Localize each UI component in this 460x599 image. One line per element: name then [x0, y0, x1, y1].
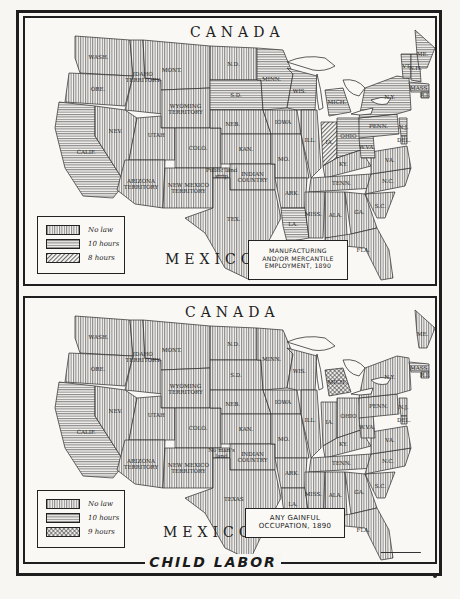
- legend-item-10-hours: 10 hours: [46, 513, 119, 523]
- state-label: N.J.: [399, 124, 409, 131]
- state-label: KY.: [339, 441, 348, 447]
- state-label: MASS.: [410, 365, 429, 371]
- state-label: TERRITORY: [168, 389, 203, 395]
- artist-signature: [381, 546, 424, 553]
- state-label: COUNTRY: [238, 177, 268, 183]
- state-label: IA.: [325, 139, 333, 145]
- state-label: KY.: [339, 161, 348, 167]
- state-label: ME.: [417, 51, 429, 57]
- state-label: MONT.: [162, 67, 182, 73]
- state-label: WASH.: [89, 54, 109, 60]
- state-label: KAN.: [239, 146, 254, 152]
- state-label: S.D.: [230, 92, 242, 98]
- legend-item-no-law: No law: [46, 499, 113, 509]
- state-label: R.I.: [420, 92, 430, 98]
- title-text: CHILD LABOR: [145, 554, 281, 570]
- state-label: TERRITORY: [171, 188, 206, 194]
- state-label: WASH.: [89, 334, 109, 340]
- state-label: MINN.: [262, 356, 281, 362]
- state-label: MICH.: [328, 379, 347, 385]
- legend-label: 9 hours: [88, 528, 115, 536]
- state-label: MISS.: [305, 491, 322, 497]
- corner-mark: [433, 574, 437, 578]
- state-label: ILL.: [304, 417, 316, 423]
- state-label: ORE.: [91, 86, 106, 92]
- state-label: MISS.: [305, 211, 322, 217]
- state-label: FLA.: [357, 247, 371, 253]
- pattern-swatch-vertical: [46, 499, 80, 509]
- state-label: CALIF.: [77, 429, 96, 435]
- state-label: TEXAS: [224, 496, 244, 502]
- state-label: LA.: [288, 501, 298, 507]
- state-label: TENN.: [332, 180, 351, 186]
- state-label: TERRITORY: [171, 468, 206, 474]
- state-label: TERRITORY: [168, 109, 203, 115]
- pattern-swatch-crosshatch: [46, 527, 80, 537]
- state-label: ARK.: [284, 470, 299, 476]
- state-label: N.C.: [382, 458, 394, 464]
- state-label: IOWA: [275, 119, 292, 125]
- state-label: N.D.: [227, 61, 240, 67]
- legend-label: 10 hours: [88, 240, 119, 248]
- state-label: TENN.: [332, 460, 351, 466]
- state-label: KAN.: [239, 426, 254, 432]
- legend-label: No law: [88, 226, 113, 234]
- pattern-swatch-diagonal: [46, 253, 80, 263]
- caption-line: EMPLOYMENT, 1890: [249, 262, 347, 270]
- state-label: OHIO: [340, 133, 357, 139]
- state-label: strip: [215, 173, 229, 180]
- legend-item-9-hours: 9 hours: [46, 527, 115, 537]
- state-label: NEV.: [108, 128, 122, 134]
- pattern-swatch-vertical: [46, 225, 80, 235]
- legend-label: 10 hours: [88, 514, 119, 522]
- state-label: UTAH: [148, 412, 165, 418]
- caption-line: OCCUPATION, 1890: [246, 523, 344, 531]
- state-label: MINN.: [262, 76, 281, 82]
- state-label: PENN.: [369, 123, 388, 129]
- state-label: TERRITORY: [126, 77, 161, 83]
- map-caption: MANUFACTURING AND/OR MERCANTILE EMPLOYME…: [248, 240, 348, 280]
- state-label: R.I.: [420, 372, 430, 378]
- state-label: UTAH: [148, 132, 165, 138]
- state-label: VA.: [384, 437, 395, 443]
- state-region: [415, 30, 435, 68]
- state-label: WIS.: [293, 368, 307, 374]
- state-label: N.H.: [409, 65, 422, 71]
- state-label: ARK.: [284, 190, 299, 196]
- legend-label: No law: [88, 500, 113, 508]
- map-panel-gainful-occupation-1890: WASH.ORE.CALIF.IDAHOTERRITORYNEV.MONT.WY…: [23, 296, 437, 564]
- pattern-swatch-horizontal: [46, 239, 80, 249]
- state-label: MO.: [278, 156, 290, 162]
- state-label: S.D.: [230, 372, 242, 378]
- page-title: CHILD LABOR: [0, 554, 426, 570]
- map-caption: ANY GAINFUL OCCUPATION, 1890: [245, 508, 345, 538]
- state-label: DEL.: [397, 137, 411, 143]
- state-label: N.J.: [399, 404, 409, 411]
- caption-line: MANUFACTURING: [249, 247, 347, 255]
- legend-item-10-hours: 10 hours: [46, 239, 119, 249]
- state-label: COUNTRY: [238, 457, 268, 463]
- state-label: NEB.: [225, 401, 240, 407]
- state-label: PENN.: [369, 403, 388, 409]
- state-label: NEV.: [108, 408, 122, 414]
- legend-label: 8 hours: [88, 254, 115, 262]
- state-label: N.Y.: [384, 94, 395, 100]
- state-label: NEB.: [225, 121, 240, 127]
- map-panel-manufacturing-1890: WASH.ORE.CALIF.IDAHOTERRITORYNEV.MONT.WY…: [23, 16, 437, 286]
- state-label: LA.: [288, 221, 298, 227]
- legend-item-8-hours: 8 hours: [46, 253, 115, 263]
- country-label-canada: CANADA: [190, 24, 285, 40]
- state-label: ME.: [417, 331, 429, 337]
- state-label: ILL.: [304, 137, 316, 143]
- legend: No law 10 hours 9 hours: [37, 490, 125, 548]
- legend: No law 10 hours 8 hours: [37, 216, 125, 274]
- state-label: VA.: [384, 157, 395, 163]
- state-label: ALA.: [328, 492, 343, 498]
- country-label-canada: CANADA: [185, 304, 280, 320]
- pattern-swatch-horizontal: [46, 513, 80, 523]
- state-label: WIS.: [293, 88, 307, 94]
- state-label: MASS.: [410, 85, 429, 91]
- state-region: [415, 310, 435, 348]
- state-label: TEX.: [227, 216, 241, 222]
- state-label: W.VA.: [359, 424, 375, 430]
